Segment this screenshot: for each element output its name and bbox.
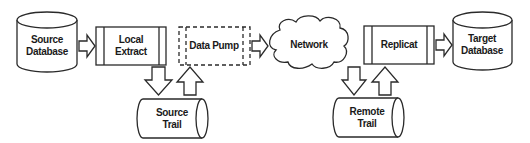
arrow-right-icon [252, 35, 268, 57]
local-extract-label: Local Extract [115, 34, 147, 58]
arrow-down-icon [145, 67, 172, 95]
arrow-down-icon [342, 67, 366, 95]
arrow-right-icon [436, 34, 452, 56]
arrow-up-icon [372, 67, 398, 95]
replication-diagram [0, 0, 530, 143]
replicat-label: Replicat [381, 39, 418, 51]
source-database-label: Source Database [26, 34, 68, 58]
arrow-up-icon [177, 67, 203, 95]
remote-trail-label: Remote Trail [350, 106, 385, 130]
network-label: Network [290, 39, 327, 51]
source-trail-label: Source Trail [156, 107, 188, 131]
data-pump-label: Data Pump [189, 40, 239, 52]
arrow-right-icon [79, 35, 95, 57]
target-database-label: Target Database [461, 33, 503, 57]
